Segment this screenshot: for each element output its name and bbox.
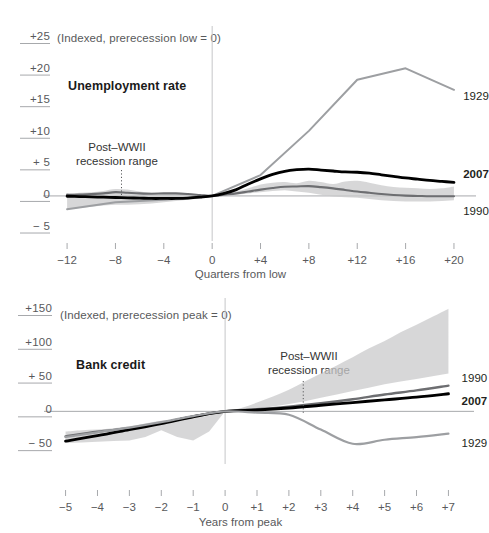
xtick-label-unemployment-7: +16	[386, 254, 426, 266]
series-label-unemployment-1990: 1990	[463, 205, 489, 217]
chart-unemployment-rate: Unemployment rate (Indexed, prerecession…	[0, 0, 481, 285]
ytick-label-unemployment-0: +25	[0, 30, 50, 42]
series-label-bankcredit-1929: 1929	[462, 437, 488, 449]
series-label-unemployment-1929: 1929	[463, 90, 489, 102]
ytick-label-bankcredit-3: 0	[0, 403, 52, 415]
xtick-label-unemployment-2: −4	[144, 254, 184, 266]
series-label-bankcredit-1990: 1990	[462, 372, 488, 384]
xtick-label-bankcredit-12: +7	[428, 501, 468, 513]
ytick-label-bankcredit-0: +150	[0, 302, 52, 314]
ytick-label-unemployment-3: +10	[0, 125, 50, 137]
xtick-label-unemployment-1: −8	[95, 254, 135, 266]
chart-bank-credit: Bank credit (Indexed, prerecession peak …	[0, 285, 481, 533]
ytick-label-bankcredit-2: + 50	[0, 370, 52, 382]
xtick-label-unemployment-3: 0	[192, 254, 232, 266]
series-label-bankcredit-2007: 2007	[462, 395, 488, 407]
xtick-label-unemployment-5: +8	[289, 254, 329, 266]
series-label-unemployment-2007: 2007	[463, 168, 489, 180]
xtick-label-unemployment-8: +20	[434, 254, 474, 266]
xtick-label-unemployment-0: −12	[47, 254, 87, 266]
ytick-label-unemployment-6: − 5	[0, 220, 50, 232]
ytick-label-unemployment-5: 0	[0, 188, 50, 200]
ytick-label-unemployment-4: + 5	[0, 156, 50, 168]
plot-area-unemployment	[0, 0, 481, 285]
xtick-label-unemployment-6: +12	[337, 254, 377, 266]
ytick-label-unemployment-2: +15	[0, 93, 50, 105]
ytick-label-bankcredit-4: − 50	[0, 437, 52, 449]
plot-area-bankcredit	[0, 285, 481, 533]
xtick-label-unemployment-4: +4	[241, 254, 281, 266]
band-postwwii-bankcredit	[66, 309, 449, 443]
ytick-label-unemployment-1: +20	[0, 62, 50, 74]
ytick-label-bankcredit-1: +100	[0, 336, 52, 348]
